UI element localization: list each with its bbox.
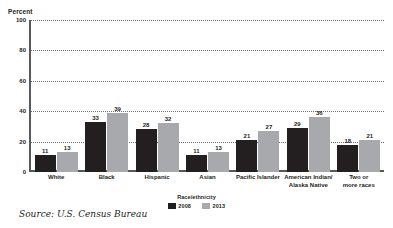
bar [35, 155, 56, 172]
bar [337, 145, 358, 172]
bar-value-label: 13 [215, 145, 222, 151]
bar [85, 122, 106, 172]
bar-value-label: 11 [193, 148, 199, 154]
bar-column: 33 [85, 20, 106, 172]
y-tick-label: 0 [23, 169, 26, 175]
bar [57, 152, 78, 172]
y-tick-label: 20 [19, 139, 26, 145]
bar-column: 13 [57, 20, 78, 172]
x-axis-title: Race/ethnicity [0, 194, 393, 200]
source-note: Source: U.S. Census Bureau [19, 209, 147, 219]
bar-column: 27 [258, 20, 279, 172]
y-axis-title: Percent [8, 8, 33, 15]
bar [158, 123, 179, 172]
bar-value-label: 33 [92, 115, 99, 121]
legend-swatch [168, 203, 176, 209]
bar-value-label: 28 [143, 122, 150, 128]
bar-value-label: 32 [165, 116, 172, 122]
bar-chart-figure: Percent 020406080100 1113333928321113212… [0, 0, 393, 228]
bar-group: 2832 [132, 20, 182, 172]
y-tick-label: 60 [19, 78, 26, 84]
x-tick-label: Hispanic [132, 174, 182, 189]
bar-group: 1821 [334, 20, 384, 172]
bar-value-label: 21 [366, 133, 373, 139]
bar-column: 11 [35, 20, 56, 172]
bar-column: 18 [337, 20, 358, 172]
x-tick-label: American Indian/ Alaska Native [283, 174, 333, 189]
bar-column: 39 [107, 20, 128, 172]
legend-label: 2013 [213, 203, 226, 209]
bar-column: 36 [309, 20, 330, 172]
legend-swatch [202, 203, 210, 209]
bar [186, 155, 207, 172]
bar [136, 129, 157, 172]
bar-group: 2127 [233, 20, 283, 172]
bar-value-label: 11 [42, 148, 48, 154]
bar [208, 152, 229, 172]
y-tick-label: 40 [19, 108, 26, 114]
bar-column: 32 [158, 20, 179, 172]
y-tick-label: 80 [19, 47, 26, 53]
bar-group: 1113 [31, 20, 81, 172]
x-tick-label: Asian [182, 174, 232, 189]
bar [359, 140, 380, 172]
y-tick-label: 100 [16, 17, 26, 23]
bar-value-label: 29 [294, 121, 301, 127]
x-tick-label: Two or more races [334, 174, 384, 189]
bar-column: 28 [136, 20, 157, 172]
bar-value-label: 36 [316, 110, 323, 116]
legend-label: 2008 [178, 203, 191, 209]
bars-layer: 1113333928321113212729361821 [31, 20, 384, 172]
x-tick-labels: WhiteBlackHispanicAsianPacific IslanderA… [31, 174, 384, 189]
bar-value-label: 18 [344, 138, 351, 144]
bar-column: 21 [359, 20, 380, 172]
bar-group: 1113 [182, 20, 232, 172]
bar-value-label: 13 [64, 145, 71, 151]
bar-value-label: 27 [266, 124, 273, 130]
plot-area: 020406080100 111333392832111321272936182… [29, 20, 384, 172]
bar-value-label: 21 [244, 133, 251, 139]
bar [287, 128, 308, 172]
bar-column: 11 [186, 20, 207, 172]
bar [258, 131, 279, 172]
x-tick-label: White [31, 174, 81, 189]
bar-group: 3339 [81, 20, 131, 172]
bar-group: 2936 [283, 20, 333, 172]
bar-column: 13 [208, 20, 229, 172]
x-tick-label: Black [81, 174, 131, 189]
bar-column: 21 [236, 20, 257, 172]
bar [309, 117, 330, 172]
bar [107, 113, 128, 172]
bar-value-label: 39 [114, 106, 121, 112]
legend-item: 2008 [168, 203, 191, 209]
bar [236, 140, 257, 172]
x-tick-label: Pacific Islander [233, 174, 283, 189]
bar-column: 29 [287, 20, 308, 172]
legend-item: 2013 [202, 203, 225, 209]
